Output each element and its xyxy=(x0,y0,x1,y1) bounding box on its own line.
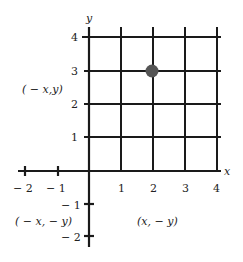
coordinate-diagram: y x 4 3 2 1 − 1 − 2 − 2 − 1 1 2 3 4 ( − … xyxy=(0,0,243,262)
plotted-point xyxy=(146,65,159,78)
quadrant-label-second: ( − x,y) xyxy=(22,83,63,96)
x-tick-label-neg1: − 1 xyxy=(46,182,66,195)
y-axis-label: y xyxy=(85,12,93,25)
y-tick-label-neg2: − 2 xyxy=(61,231,81,244)
y-tick-label-neg1: − 1 xyxy=(61,199,81,212)
x-tick-label-4: 4 xyxy=(213,182,220,195)
quadrant-label-third: ( − x, − y) xyxy=(15,215,72,228)
y-tick-label-4: 4 xyxy=(71,31,78,44)
quadrant-label-fourth: (x, − y) xyxy=(137,215,178,228)
x-tick-label-neg2: − 2 xyxy=(13,182,33,195)
y-tick-label-3: 3 xyxy=(71,65,78,78)
grid xyxy=(82,27,221,171)
y-tick-label-2: 2 xyxy=(71,98,78,111)
x-tick-label-1: 1 xyxy=(118,182,125,195)
y-tick-label-1: 1 xyxy=(71,131,78,144)
x-tick-label-3: 3 xyxy=(182,182,189,195)
x-tick-label-2: 2 xyxy=(150,182,157,195)
x-axis-label: x xyxy=(224,165,231,178)
